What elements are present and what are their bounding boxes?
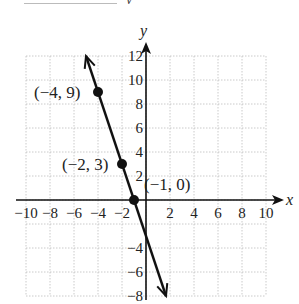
y-tick-label: 6 (136, 120, 144, 136)
x-tick-label: −4 (90, 205, 106, 221)
data-point (117, 159, 127, 169)
x-tick-labels: −10−8−6−4−2246810 (14, 205, 273, 221)
x-tick-label: 10 (259, 205, 274, 221)
y-tick-label: −8 (127, 288, 143, 304)
x-tick-label: 4 (190, 205, 198, 221)
y-tick-label: −4 (127, 240, 143, 256)
data-point (93, 87, 103, 97)
x-tick-label: 2 (166, 205, 174, 221)
point-label: (−2, 3) (62, 155, 108, 174)
x-tick-label: −6 (66, 205, 82, 221)
y-tick-label: 8 (136, 96, 144, 112)
point-label: (−4, 9) (34, 83, 80, 102)
x-axis-label: x (285, 191, 293, 208)
y-axis-label: y (138, 22, 148, 40)
y-tick-label: −6 (127, 264, 143, 280)
y-tick-label: 4 (136, 144, 144, 160)
x-tick-label: −10 (14, 205, 37, 221)
data-point (129, 195, 139, 205)
y-tick-label: 2 (136, 168, 144, 184)
x-tick-label: 8 (238, 205, 246, 221)
x-tick-label: −2 (114, 205, 130, 221)
point-label: (−1, 0) (144, 175, 190, 194)
y-tick-labels: 12108642−4−6−8 (127, 48, 143, 304)
y-tick-label: 12 (128, 48, 143, 64)
coordinate-plane: x y −10−8−6−4−2246810 12108642−4−6−8 (−4… (0, 0, 299, 304)
x-tick-label: −8 (42, 205, 58, 221)
x-tick-label: 6 (214, 205, 222, 221)
y-tick-label: 10 (128, 72, 143, 88)
